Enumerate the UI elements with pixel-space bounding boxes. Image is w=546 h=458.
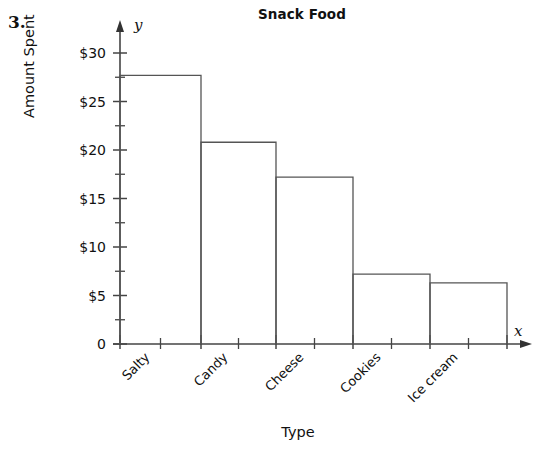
y-axis-variable-label: y xyxy=(133,16,143,34)
x-axis-variable-label: x xyxy=(514,322,523,340)
y-axis-tick-label: $10 xyxy=(79,239,106,255)
y-axis-title: Amount Spent xyxy=(21,0,37,118)
y-axis-tick-label: $25 xyxy=(79,94,106,110)
bar-ice-cream xyxy=(430,283,507,344)
x-axis-category-label: Cheese xyxy=(262,350,307,395)
y-axis-tick-label: 0 xyxy=(97,336,106,352)
y-axis-tick-label: $15 xyxy=(79,191,106,207)
bar-cheese xyxy=(276,177,353,344)
bar-cookies xyxy=(353,274,430,344)
chart-axes xyxy=(113,20,532,348)
x-axis-category-label: Salty xyxy=(119,349,153,383)
x-axis-arrow-icon xyxy=(520,340,532,348)
bar-series xyxy=(120,75,507,344)
y-axis-tick-label: $30 xyxy=(79,45,106,61)
y-axis-tick-label: $20 xyxy=(79,142,106,158)
y-axis-tick-labels: 0$5$10$15$20$25$30 xyxy=(79,45,106,352)
x-axis-category-labels: SaltyCandyCheeseCookiesIce cream xyxy=(119,349,461,405)
y-axis-arrow-icon xyxy=(116,20,124,32)
x-axis-category-label: Candy xyxy=(191,349,231,389)
bar-candy xyxy=(201,142,276,344)
y-axis-tick-label: $5 xyxy=(88,288,106,304)
x-axis-ticks xyxy=(120,335,507,349)
x-axis-title: Type xyxy=(0,424,546,440)
x-axis-category-label: Ice cream xyxy=(405,350,461,406)
x-axis-category-label: Cookies xyxy=(337,349,384,396)
bar-salty xyxy=(120,75,201,344)
bar-chart-plot: 0$5$10$15$20$25$30 SaltyCandyCheeseCooki… xyxy=(0,0,546,458)
